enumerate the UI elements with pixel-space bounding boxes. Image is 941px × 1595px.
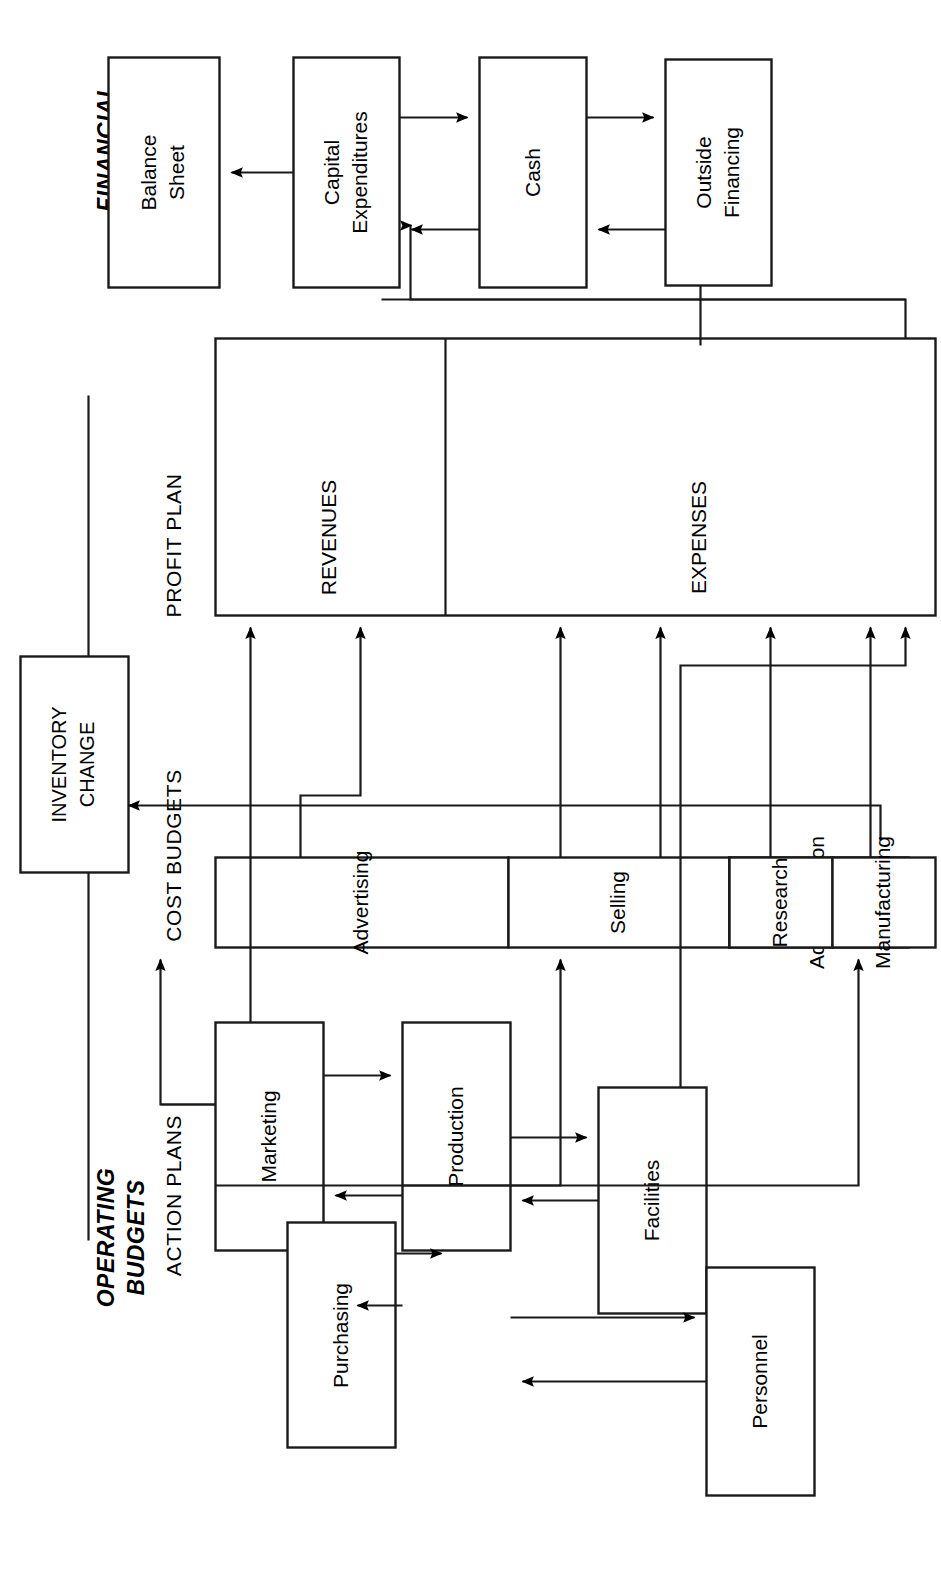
node-purchasing-label: Purchasing bbox=[329, 1282, 352, 1387]
node-outside-financing-line1: Outside bbox=[692, 136, 715, 208]
section-label-cost-budgets: COST BUDGETS bbox=[161, 769, 184, 942]
node-balance-sheet[interactable] bbox=[108, 57, 219, 287]
node-personnel-label: Personnel bbox=[748, 1334, 771, 1429]
node-production-label: Production bbox=[444, 1086, 467, 1186]
node-facilities-label: Facilities bbox=[640, 1159, 663, 1241]
node-outside-financing[interactable] bbox=[665, 59, 771, 285]
node-balance-sheet-line1: Balance bbox=[137, 134, 160, 210]
section-label-action-plans: ACTION PLANS bbox=[161, 1114, 184, 1275]
node-manufacturing-label: Manufacturing bbox=[871, 835, 894, 968]
node-inventory-change-line2: CHANGE bbox=[75, 721, 97, 807]
node-research-label: Research bbox=[768, 857, 791, 947]
node-expenses-label: EXPENSES bbox=[687, 480, 710, 593]
operating-budgets-line2: BUDGETS bbox=[122, 1179, 148, 1295]
node-inventory-change-line1: INVENTORY bbox=[47, 706, 69, 822]
node-cash-label: Cash bbox=[521, 147, 544, 196]
node-outside-financing-line2: Financing bbox=[720, 126, 743, 217]
node-marketing-label: Marketing bbox=[257, 1090, 280, 1182]
diagram-page: OPERATING BUDGETS FINANCIAL BUDGETS ACTI… bbox=[0, 0, 941, 1595]
node-capital-expenditures[interactable] bbox=[293, 57, 399, 287]
section-label-profit-plan: PROFIT PLAN bbox=[161, 473, 184, 617]
node-capital-expenditures-line2: Expenditures bbox=[348, 111, 371, 234]
node-selling-label: Selling bbox=[606, 870, 629, 933]
node-capital-expenditures-line1: Capital bbox=[320, 139, 343, 204]
node-revenues-label: REVENUES bbox=[317, 479, 340, 595]
node-advertising-label: Advertising bbox=[349, 850, 372, 954]
node-inventory-change[interactable] bbox=[20, 656, 128, 872]
node-balance-sheet-line2: Sheet bbox=[165, 144, 188, 199]
operating-budgets-line1: OPERATING bbox=[92, 1167, 118, 1307]
budget-flow-diagram: OPERATING BUDGETS FINANCIAL BUDGETS ACTI… bbox=[0, 0, 941, 1595]
diagram-canvas: OPERATING BUDGETS FINANCIAL BUDGETS ACTI… bbox=[0, 0, 941, 1595]
